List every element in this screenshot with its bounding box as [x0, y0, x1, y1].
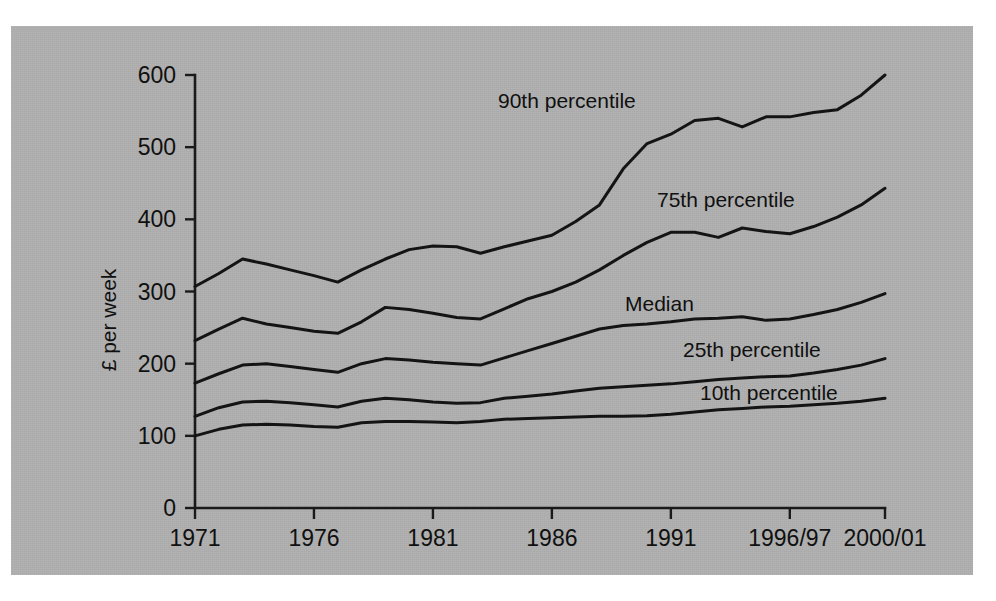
x-tick-label: 1971	[169, 525, 220, 551]
x-tick-label: 1996/97	[748, 525, 831, 551]
y-tick-label: 200	[138, 351, 176, 377]
earnings-percentiles-line-chart: 0100200300400500600197119761981198619911…	[0, 0, 996, 601]
y-tick-label: 600	[138, 62, 176, 88]
y-axis-title: £ per week	[97, 268, 120, 371]
x-tick-label: 1986	[526, 525, 577, 551]
series-line-75th-percentile	[195, 188, 885, 340]
y-tick-label: 100	[138, 423, 176, 449]
x-tick-label: 2000/01	[843, 525, 926, 551]
x-tick-label: 1991	[645, 525, 696, 551]
axis-lines	[195, 75, 885, 508]
y-tick-label: 0	[163, 495, 176, 521]
x-tick-label: 1981	[407, 525, 458, 551]
x-tick-label: 1976	[288, 525, 339, 551]
axis-tick-labels: 0100200300400500600197119761981198619911…	[138, 62, 927, 551]
series-annotation: 90th percentile	[498, 89, 636, 112]
chart-page: 0100200300400500600197119761981198619911…	[0, 0, 996, 601]
y-tick-label: 400	[138, 206, 176, 232]
y-tick-label: 500	[138, 134, 176, 160]
series-annotation: 75th percentile	[657, 188, 795, 211]
series-annotation: 25th percentile	[683, 338, 821, 361]
series-annotation: Median	[625, 292, 694, 315]
series-annotation: 10th percentile	[700, 381, 838, 404]
y-tick-label: 300	[138, 279, 176, 305]
